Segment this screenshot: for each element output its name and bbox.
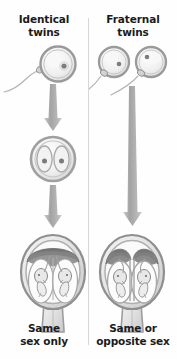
caption-line-2: opposite sex [89, 335, 177, 348]
fetus-right [56, 256, 72, 297]
heading-line-1: Identical [0, 13, 88, 26]
arrow-down-1-identical [44, 84, 62, 131]
column-caption-fraternal: Same or opposite sex [89, 322, 177, 348]
heading-line-2: twins [89, 26, 177, 39]
heading-line-2: twins [0, 26, 88, 39]
arrow-down-2-identical [44, 185, 62, 228]
caption-line-1: Same or [89, 322, 177, 335]
column-fraternal-twins: Fraternal twins [89, 0, 177, 359]
fraternal-twins-illustration [89, 0, 177, 359]
column-heading-identical: Identical twins [0, 13, 88, 39]
column-heading-fraternal: Fraternal twins [89, 13, 177, 39]
fetus-right [138, 259, 151, 298]
caption-line-1: Same [0, 322, 88, 335]
twins-development-diagram: Identical twins [0, 0, 177, 359]
heading-line-1: Fraternal [89, 13, 177, 26]
stage-zygote-division-identical [31, 137, 75, 181]
fetus-left [35, 256, 51, 297]
column-caption-identical: Same sex only [0, 322, 88, 348]
identical-twins-illustration [0, 0, 88, 359]
stage-uterus-fraternal [100, 235, 164, 332]
caption-line-2: sex only [0, 335, 88, 348]
arrow-down-long-fraternal [123, 86, 142, 226]
fetus-left [114, 259, 127, 298]
stage-fertilization-identical [4, 47, 76, 93]
stage-uterus-identical [21, 235, 85, 332]
column-identical-twins: Identical twins [0, 0, 88, 359]
stage-fertilization-fraternal [89, 47, 166, 95]
